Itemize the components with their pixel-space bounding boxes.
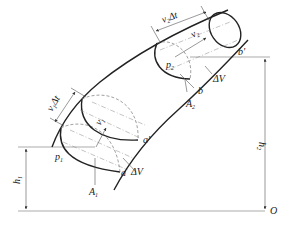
label-origin: O <box>270 205 277 216</box>
label-dV-upper: ΔV <box>212 73 227 84</box>
section-b-front <box>155 43 190 79</box>
section-a-prime-front <box>82 99 138 140</box>
label-b: b <box>198 85 203 96</box>
A2-leader <box>185 80 187 92</box>
tube-upper-wall <box>52 10 228 147</box>
section-a-front <box>60 128 120 172</box>
label-v2: v2 <box>189 26 201 40</box>
dV-upper-leader <box>205 66 212 74</box>
section-b-back <box>157 42 191 79</box>
label-p1: p1 <box>54 151 63 163</box>
extension-line <box>71 88 86 97</box>
label-a-prime: a' <box>143 134 151 145</box>
extension-line <box>151 26 160 42</box>
streamline <box>63 142 128 170</box>
label-h1: h1 <box>11 176 23 184</box>
label-p2: p2 <box>165 59 174 71</box>
v2-velocity-arrow <box>175 38 206 57</box>
label-v1: v1 <box>93 115 107 128</box>
label-a: a <box>121 167 126 178</box>
streamline <box>80 110 140 138</box>
label-v1dt: v1Δt <box>44 93 63 113</box>
label-dV-lower: ΔV <box>130 166 145 177</box>
b-leader <box>180 74 194 88</box>
label-h2: h2 <box>256 142 268 150</box>
label-A1: A1 <box>88 186 98 198</box>
label-A2: A2 <box>185 98 195 110</box>
v1-velocity-arrow <box>96 128 106 147</box>
stream-tube-diagram: v1Δt v2Δt v1 v2 p1 p2 A1 A2 h1 h2 a a' b… <box>0 0 282 226</box>
label-b-prime: b' <box>238 46 246 57</box>
